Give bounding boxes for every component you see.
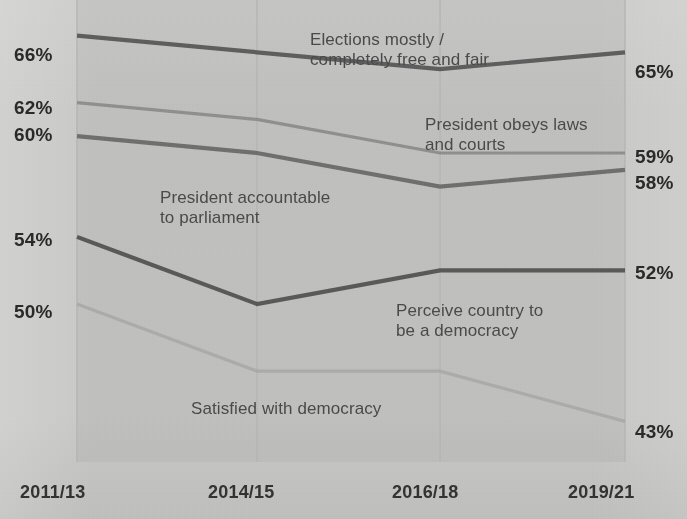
x-axis-tick-2014-15: 2014/15 — [208, 482, 274, 503]
y-axis-right-tick-52: 52% — [635, 262, 674, 284]
x-axis-tick-2016-18: 2016/18 — [392, 482, 458, 503]
y-axis-right-tick-59: 59% — [635, 146, 674, 168]
series-line-3 — [77, 237, 625, 304]
series-annotation-4: Satisfied with democracy — [191, 399, 381, 419]
y-axis-left-tick-60: 60% — [14, 124, 53, 146]
y-axis-left-tick-50: 50% — [14, 301, 53, 323]
x-axis-tick-2019-21: 2019/21 — [568, 482, 634, 503]
y-axis-left-tick-66: 66% — [14, 44, 53, 66]
y-axis-left-tick-54: 54% — [14, 229, 53, 251]
chart-page: 66%62%60%54%50% 65%59%58%52%43% 2011/132… — [0, 0, 687, 519]
x-axis-tick-2011-13: 2011/13 — [20, 482, 85, 503]
y-axis-left-tick-62: 62% — [14, 97, 53, 119]
series-lines-group — [77, 36, 625, 422]
line-chart-canvas — [0, 0, 687, 519]
series-annotation-3: Perceive country to be a democracy — [396, 301, 543, 341]
y-axis-right-tick-65: 65% — [635, 61, 674, 83]
series-annotation-0: Elections mostly / completely free and f… — [310, 30, 489, 70]
y-axis-right-tick-58: 58% — [635, 172, 674, 194]
series-annotation-1: President obeys laws and courts — [425, 115, 588, 155]
series-annotation-2: President accountable to parliament — [160, 188, 330, 228]
y-axis-right-tick-43: 43% — [635, 421, 674, 443]
